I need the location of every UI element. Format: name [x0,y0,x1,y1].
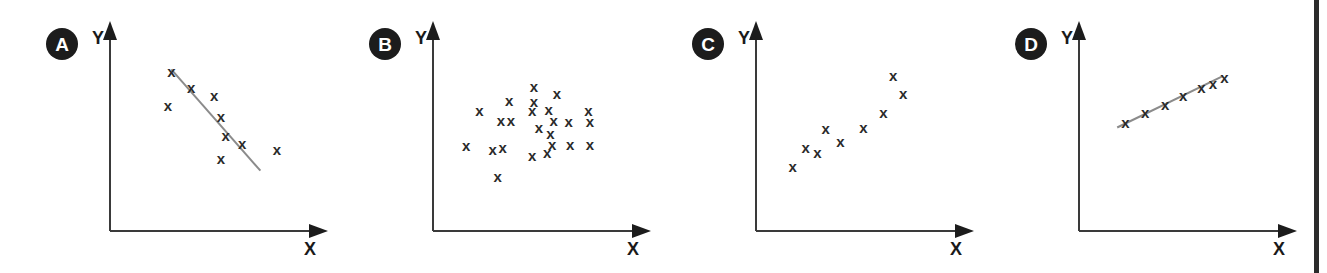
data-point-marker: x [1209,75,1218,92]
data-point-marker: x [217,108,226,125]
data-point-marker: x [802,139,811,156]
data-point-marker: x [586,136,595,153]
data-point-marker: x [535,119,544,136]
scatterplot-figure: AYXxxxxxxxxx BYXxxxxxxxxxxxxxxxxxxxxxxxx… [0,0,1327,273]
data-point-marker: x [788,158,797,175]
data-point-marker: x [836,133,845,150]
y-axis-label: Y [92,28,104,48]
data-point-marker: x [1179,87,1188,104]
data-point-marker: x [462,137,471,154]
data-point-marker: x [164,97,173,114]
y-axis-label: Y [415,28,427,48]
data-point-marker: x [505,92,514,109]
data-point-marker: x [1141,104,1150,121]
data-point-marker: x [498,139,507,156]
data-point-marker: x [222,127,231,144]
y-axis-label: Y [1061,28,1073,48]
x-axis-label: X [627,239,639,259]
scatter-panel-d: DYXxxxxxxx [969,0,1309,273]
data-point-marker: x [813,144,822,161]
data-point-marker: x [889,67,898,84]
data-point-marker: x [273,141,282,158]
data-point-marker: x [488,141,497,158]
data-point-marker: x [238,135,247,152]
scatter-plot-b: BYXxxxxxxxxxxxxxxxxxxxxxxxx [323,0,663,273]
scatter-plot-a: AYXxxxxxxxxx [0,0,340,273]
x-axis-label: X [304,239,316,259]
data-point-marker: x [1121,114,1130,131]
y-axis-arrow-icon [103,21,117,40]
data-point-marker: x [167,63,176,80]
data-point-marker: x [187,79,196,96]
data-point-marker: x [553,85,562,102]
data-point-marker: x [564,113,573,130]
scatter-panel-a: AYXxxxxxxxxx [0,0,340,273]
trend-line [1117,76,1223,127]
scatter-plot-c: CYXxxxxxxxxx [646,0,986,273]
data-point-marker: x [475,102,484,119]
panel-badge-letter: A [55,34,69,55]
data-point-marker: x [543,144,552,161]
y-axis-arrow-icon [749,21,763,40]
x-axis-label: X [1273,239,1285,259]
y-axis-label: Y [738,28,750,48]
data-point-marker: x [528,147,537,164]
data-point-marker: x [528,102,537,119]
page-edge-divider [1314,0,1319,273]
data-point-marker: x [879,104,888,121]
panel-badge-letter: B [378,34,392,55]
data-point-marker: x [821,120,830,137]
y-axis-arrow-icon [426,21,440,40]
data-point-marker: x [859,119,868,136]
x-axis-label: X [950,239,962,259]
data-point-marker: x [210,87,219,104]
data-point-marker: x [899,85,908,102]
x-axis-arrow-icon [1278,224,1297,238]
data-point-marker: x [507,112,516,129]
data-point-marker: x [586,113,595,130]
scatter-plot-d: DYXxxxxxxx [969,0,1309,273]
panel-badge-letter: D [1024,34,1038,55]
data-point-marker: x [1197,79,1206,96]
data-point-marker: x [493,168,502,185]
scatter-panel-c: CYXxxxxxxxxx [646,0,986,273]
data-point-marker: x [1220,69,1229,86]
data-point-marker: x [1161,96,1170,113]
y-axis-arrow-icon [1072,21,1086,40]
data-point-marker: x [566,136,575,153]
data-point-marker: x [497,112,506,129]
data-point-marker: x [217,150,226,167]
scatter-panel-b: BYXxxxxxxxxxxxxxxxxxxxxxxxx [323,0,663,273]
panel-badge-letter: C [701,34,715,55]
